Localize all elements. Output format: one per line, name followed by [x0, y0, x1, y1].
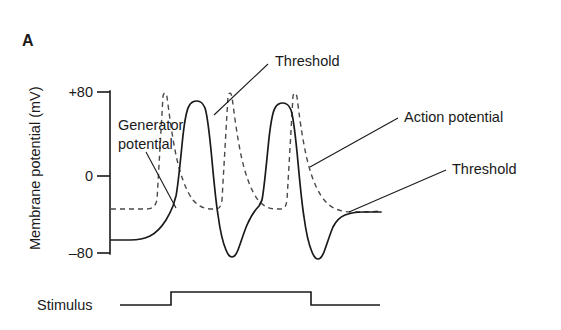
action-potential-leader — [310, 118, 398, 167]
stimulus-trace — [120, 292, 380, 305]
threshold-right-leader — [349, 170, 446, 212]
threshold-top-label: Threshold — [275, 53, 339, 69]
y-tick-label-plus80: +80 — [68, 84, 93, 100]
y-tick-label-zero: 0 — [85, 168, 93, 184]
y-axis-title: Membrane potential (mV) — [27, 86, 43, 250]
panel-label-a: A — [22, 32, 34, 49]
y-tick-label-minus80: –80 — [69, 245, 93, 261]
action-potential-label: Action potential — [404, 109, 503, 125]
threshold-right-label: Threshold — [452, 161, 516, 177]
generator-potential-label-line2: potential — [118, 136, 173, 152]
generator-potential-leader — [146, 152, 176, 208]
threshold-top-leader — [214, 64, 268, 115]
threshold-trace — [111, 93, 381, 212]
figure-panel-a: A Membrane potential (mV) +80 0 –80 Gene… — [0, 0, 561, 330]
stimulus-label: Stimulus — [37, 297, 93, 313]
action-potential-figure: A Membrane potential (mV) +80 0 –80 Gene… — [0, 0, 561, 330]
generator-potential-label-line1: Generator — [118, 117, 183, 133]
